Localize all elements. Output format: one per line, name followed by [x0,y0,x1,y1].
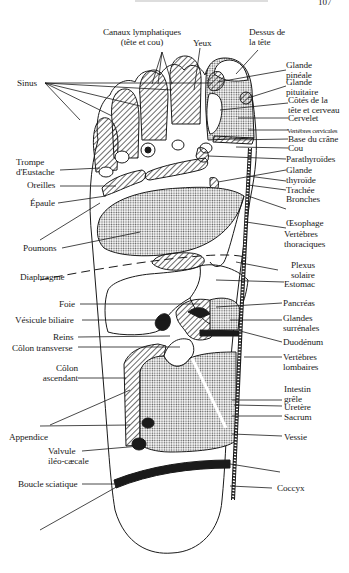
label-oesophage: Œsophage [286,219,323,229]
label-pancreas: Pancréas [283,299,315,309]
boucle-sciatique [114,460,230,488]
label-cou: Cou [288,144,303,154]
pituitaire-zone [240,92,252,104]
epaule-bar [145,158,208,180]
label-glande-thyroide: Glande thyroïde [286,166,316,185]
label-plexus-solaire: Plexus solaire [291,261,315,280]
label-canaux-lymphatiques: Canaux lymphatiques (tête et cou) [103,28,181,47]
label-poumons: Poumons [23,244,57,254]
label-colon-transverse: Côlon transverse [12,344,72,354]
label-oreilles: Oreilles [27,181,55,191]
duodenum-bar [200,330,240,336]
label-glandes-surrenales: Glandes surrénales [283,314,319,333]
label-dessus-tete: Dessus de la tête [249,28,285,47]
label-sacrum: Sacrum [284,413,311,423]
label-colon-ascendant: Côlon ascendant [36,364,78,383]
label-vertebres-thoraciques: Vertèbres thoraciques [284,230,325,249]
intestin-grele-zone [140,352,236,452]
label-yeux: Yeux [193,39,212,49]
toe-2 [170,56,201,124]
page-number: 107 [318,0,332,7]
label-diaphragme: Diaphragme [20,273,64,283]
label-foie: Foie [59,300,75,310]
label-coccyx: Coccyx [277,484,304,494]
label-duodenum: Duodénum [283,338,323,348]
label-reins: Reins [53,333,73,343]
label-vesicule-biliaire: Vésicule biliaire [15,316,74,326]
label-boucle-sciatique: Boucle sciatique [18,480,77,490]
label-parathyroides: Parathyroïdes [286,155,335,165]
surrenales-zone [210,298,240,330]
label-estomac: Estomac [284,280,315,290]
label-bronches: Bronches [286,195,320,205]
vesicule-zone [155,314,170,331]
label-trompe-eustache: Trompe d'Eustache [16,158,54,177]
toe-3 [140,70,168,140]
label-vertebres-lombaires: Vertèbres lombaires [283,353,318,372]
label-cervelet: Cervelet [288,114,318,124]
toe-4 [112,89,139,158]
diaphragm-line [40,255,248,280]
label-sinus: Sinus [17,79,37,89]
label-appendice: Appendice [9,433,48,443]
label-epaule: Épaule [30,199,55,209]
label-valvule-ileo-caecale: Valvule iléo-cæcale [48,447,89,466]
label-vessie: Vessie [284,433,307,443]
poumons-zone [97,187,244,255]
